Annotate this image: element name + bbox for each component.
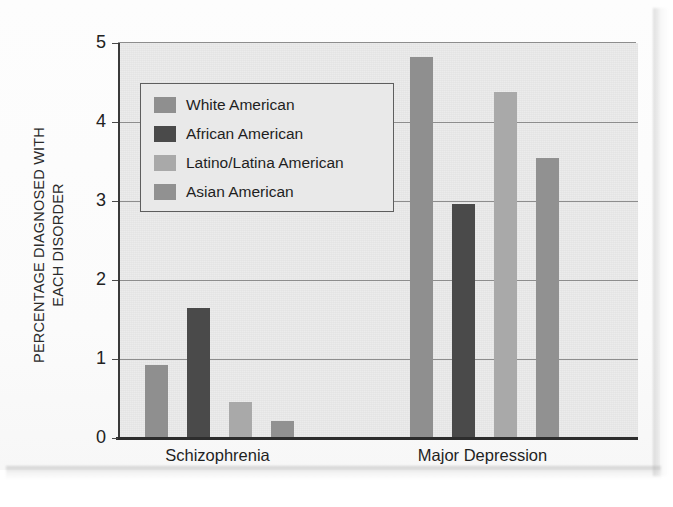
legend-item-label: White American [186, 96, 295, 114]
y-tick-label-3: 3 [76, 190, 106, 211]
legend-item-label: African American [186, 125, 303, 143]
chart-figure: PERCENTAGE DIAGNOSED WITH EACH DISORDER … [0, 0, 673, 507]
legend-item-label: Asian American [186, 183, 294, 201]
bar [229, 402, 252, 438]
bar [145, 365, 168, 438]
bar [187, 308, 210, 438]
legend-item-label: Latino/Latina American [186, 154, 344, 172]
legend: White AmericanAfrican AmericanLatino/Lat… [140, 83, 394, 212]
legend-swatch-icon [154, 97, 176, 113]
y-tick-mark-1 [112, 359, 118, 360]
y-tick-label-5: 5 [76, 32, 106, 53]
legend-swatch-icon [154, 126, 176, 142]
legend-item: Asian American [141, 177, 393, 206]
y-tick-mark-3 [112, 201, 118, 202]
bar [494, 92, 517, 438]
y-tick-label-0: 0 [76, 427, 106, 448]
bar [452, 204, 475, 438]
y-tick-label-4: 4 [76, 111, 106, 132]
y-axis-title-line-2: EACH DISORDER [49, 127, 68, 363]
x-axis-line [116, 437, 638, 440]
y-tick-mark-2 [112, 280, 118, 281]
page-shadow-bottom [6, 466, 661, 480]
bar [410, 57, 433, 438]
legend-item: Latino/Latina American [141, 148, 393, 177]
bar [536, 158, 559, 438]
gridline-2 [120, 280, 638, 281]
y-tick-label-1: 1 [76, 348, 106, 369]
legend-item: African American [141, 119, 393, 148]
y-axis-title-line-1: PERCENTAGE DIAGNOSED WITH [30, 127, 49, 363]
legend-item: White American [141, 90, 393, 119]
y-tick-mark-0 [112, 438, 118, 439]
legend-swatch-icon [154, 155, 176, 171]
legend-swatch-icon [154, 184, 176, 200]
page-shadow-right [653, 8, 669, 476]
y-tick-mark-5 [112, 43, 118, 44]
x-axis-label-schizophrenia: Schizophrenia [108, 446, 328, 465]
y-tick-mark-4 [112, 122, 118, 123]
plot-top-border [118, 42, 636, 43]
bar [271, 421, 294, 438]
x-axis-label-major-depression: Major Depression [373, 446, 593, 465]
y-tick-label-2: 2 [76, 269, 106, 290]
